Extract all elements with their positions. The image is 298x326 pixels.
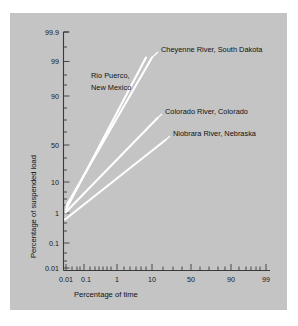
series-label-colorado: Colorado River, Colorado xyxy=(165,107,248,116)
x-tick-label-1: 1 xyxy=(115,275,119,284)
y-axis-title: Percentage of suspended load xyxy=(29,155,38,258)
series-label-rio-puerco-line1: Rio Puerco, xyxy=(91,71,130,80)
x-tick-label-0-01: 0.01 xyxy=(59,275,73,284)
y-tick-label-0-1: 0.1 xyxy=(49,239,59,248)
series-label-cheyenne: Cheyenne River, South Dakota xyxy=(161,45,263,54)
y-tick-label-50: 50 xyxy=(51,141,59,150)
x-tick-label-99: 99 xyxy=(262,275,270,284)
x-tick-label-0-1: 0.1 xyxy=(81,275,91,284)
x-axis-title: Percentage of time xyxy=(74,290,138,299)
series-label-rio-puerco-line2: New Mexico xyxy=(91,83,131,92)
y-tick-label-99-9: 99.9 xyxy=(45,28,59,37)
x-axis-minor-ticks xyxy=(72,267,260,271)
x-tick-label-50: 50 xyxy=(187,275,195,284)
leader-niobrara xyxy=(166,136,171,140)
suspended-load-chart: 99.9 99 90 50 10 1 0.1 0.01 xyxy=(0,0,298,326)
series-label-niobrara: Niobrara River, Nebraska xyxy=(173,129,257,138)
y-tick-label-1: 1 xyxy=(55,209,59,218)
y-tick-label-99: 99 xyxy=(51,57,59,66)
x-axis-major-ticks xyxy=(66,264,266,271)
series-line-colorado xyxy=(66,118,158,213)
series-line-niobrara xyxy=(65,140,166,220)
y-tick-label-10: 10 xyxy=(51,178,59,187)
y-axis-major-ticks xyxy=(64,32,70,268)
x-tick-label-10: 10 xyxy=(148,275,156,284)
y-tick-label-90: 90 xyxy=(51,92,59,101)
leader-cheyenne xyxy=(152,52,158,58)
y-tick-label-0-01: 0.01 xyxy=(45,264,59,273)
x-tick-label-90: 90 xyxy=(227,275,235,284)
leader-colorado xyxy=(158,114,163,118)
